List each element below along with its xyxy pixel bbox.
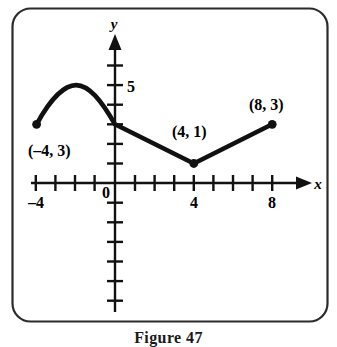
y-axis-label: y <box>109 16 118 32</box>
x-tick-label-4: 4 <box>190 194 198 211</box>
point-label-right: (8, 3) <box>249 96 284 114</box>
point-label-valley: (4, 1) <box>172 123 207 141</box>
data-point-valley <box>189 159 198 168</box>
y-tick-label-5: 5 <box>127 78 135 95</box>
figure-caption: Figure 47 <box>0 329 337 347</box>
x-axis-label: x <box>313 176 322 192</box>
x-tick-label-8: 8 <box>268 194 276 211</box>
data-point-right <box>268 120 277 129</box>
x-tick-label-neg4: –4 <box>27 194 44 211</box>
point-label-left: (–4, 3) <box>28 142 71 160</box>
figure-frame <box>13 9 328 322</box>
data-point-left <box>32 120 41 129</box>
origin-label: 0 <box>102 184 110 201</box>
